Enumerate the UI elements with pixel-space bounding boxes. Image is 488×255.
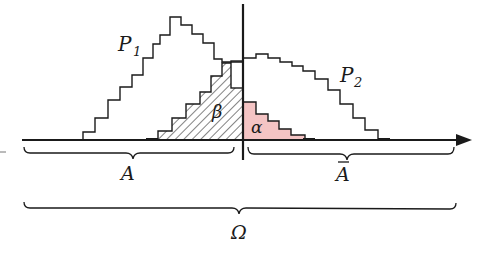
label-alpha: α <box>251 117 263 137</box>
brace-a-bar <box>248 147 454 160</box>
label-region-a: A <box>119 162 135 184</box>
label-p1: P <box>117 32 132 56</box>
label-p1-subscript: 1 <box>133 44 141 59</box>
diagram-canvas: P 1 P 2 β α A A Ω <box>0 0 488 255</box>
beta-region <box>158 63 243 140</box>
label-p2-subscript: 2 <box>353 75 362 90</box>
label-omega: Ω <box>230 221 247 243</box>
beta-overlap-box <box>231 61 243 88</box>
label-region-a-bar: A <box>334 163 350 185</box>
label-p2: P <box>339 63 354 87</box>
brace-a <box>24 147 234 159</box>
label-beta: β <box>211 101 222 122</box>
brace-omega <box>24 202 456 214</box>
x-axis-arrowhead <box>456 134 472 146</box>
